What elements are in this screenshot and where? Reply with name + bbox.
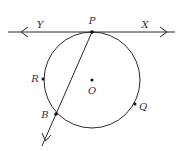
label-q: Q <box>139 101 147 112</box>
label-r: R <box>30 73 39 84</box>
arrowhead-down-icon <box>42 133 51 141</box>
geometry-diagram: Y X P O R B Q <box>0 0 184 151</box>
point-p-dot <box>90 30 94 34</box>
secant-ray-pb <box>42 32 92 146</box>
point-o-dot <box>91 79 94 82</box>
point-r-dot <box>42 78 45 81</box>
label-b: B <box>40 109 48 120</box>
point-b-dot <box>54 112 58 116</box>
label-y: Y <box>37 19 45 30</box>
point-q-dot <box>134 103 137 106</box>
label-o: O <box>88 85 96 96</box>
label-x: X <box>140 19 149 30</box>
label-p: P <box>88 15 96 26</box>
